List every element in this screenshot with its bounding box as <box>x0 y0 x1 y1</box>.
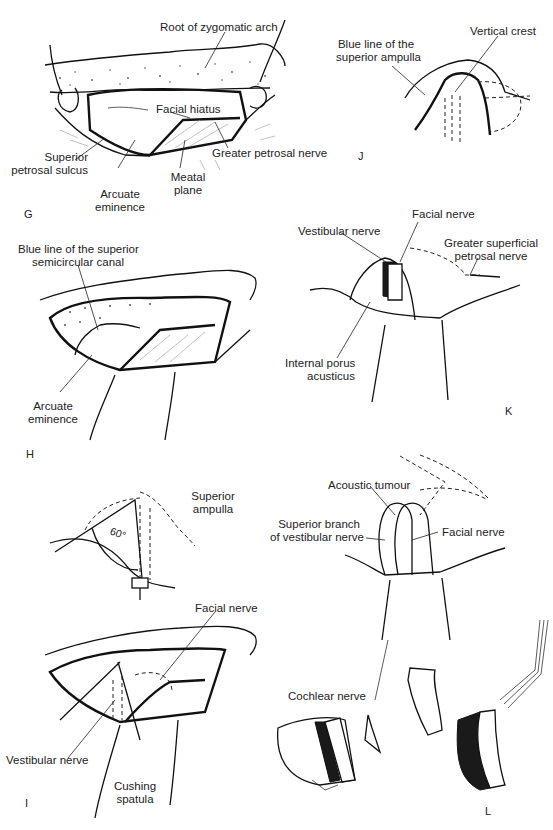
panel-letter-j: J <box>358 150 364 162</box>
label-blue-line-semicircular-canal-1: Blue line of the superior <box>18 243 138 256</box>
panel-letter-l: L <box>485 805 491 817</box>
label-arcuate-eminence-h-2: eminence <box>28 413 78 426</box>
illustration-drawings <box>0 0 553 830</box>
label-blue-line-superior-ampulla-1: Blue line of the <box>336 38 416 51</box>
label-cushing-spatula-1: Cushing <box>110 780 160 793</box>
label-internal-porus-acusticus-1: Internal porus <box>285 357 355 370</box>
label-arcuate-eminence-1: Arcuate <box>90 188 150 201</box>
label-meatal-plane-1: Meatal <box>163 171 213 184</box>
label-vertical-crest: Vertical crest <box>470 25 536 38</box>
label-vestibular-nerve-k: Vestibular nerve <box>298 225 380 238</box>
label-superior-petrosal-sulcus-1: Superior <box>15 151 88 164</box>
label-superior-ampulla-1: Superior <box>186 490 240 503</box>
panel-letter-i: I <box>25 797 28 809</box>
label-superior-branch-vestibular-2: of vestibular nerve <box>270 531 360 544</box>
label-facial-nerve-l: Facial nerve <box>442 526 505 539</box>
label-arcuate-eminence-h-1: Arcuate <box>28 400 78 413</box>
panel-letter-g: G <box>24 208 33 220</box>
label-superior-petrosal-sulcus-2: petrosal sulcus <box>10 164 88 177</box>
label-superior-branch-vestibular-1: Superior branch <box>270 518 360 531</box>
label-root-zygomatic-arch: Root of zygomatic arch <box>160 21 278 34</box>
label-blue-line-semicircular-canal-2: semicircular canal <box>18 256 138 269</box>
label-acoustic-tumour: Acoustic tumour <box>328 479 410 492</box>
label-greater-superficial-petrosal-2: petrosal nerve <box>441 250 541 263</box>
label-arcuate-eminence-2: eminence <box>90 201 150 214</box>
surgical-illustration-figure: Root of zygomatic arch Facial hiatus Gre… <box>0 0 553 830</box>
label-meatal-plane-2: plane <box>163 184 213 197</box>
label-facial-hiatus: Facial hiatus <box>156 103 221 116</box>
panel-letter-h: H <box>26 448 34 460</box>
label-superior-ampulla-2: ampulla <box>186 503 240 516</box>
label-facial-nerve-k: Facial nerve <box>412 208 475 221</box>
label-vestibular-nerve-i: Vestibular nerve <box>6 754 88 767</box>
panel-l-nerve-drawing <box>278 620 548 790</box>
label-internal-porus-acusticus-2: acusticus <box>285 370 355 383</box>
panel-letter-k: K <box>505 405 512 417</box>
label-blue-line-superior-ampulla-2: superior ampulla <box>336 51 416 64</box>
label-facial-nerve-i: Facial nerve <box>195 602 258 615</box>
label-cochlear-nerve: Cochlear nerve <box>288 690 366 703</box>
label-greater-petrosal-nerve: Greater petrosal nerve <box>212 147 327 160</box>
label-cushing-spatula-2: spatula <box>110 793 160 806</box>
label-greater-superficial-petrosal-1: Greater superficial <box>441 237 541 250</box>
panel-i-angle-drawing <box>50 492 195 600</box>
